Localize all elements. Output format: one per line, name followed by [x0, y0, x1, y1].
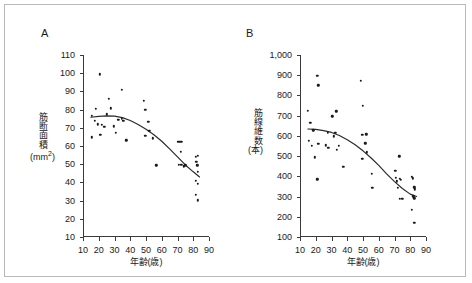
y-tick-label-b: 600 [277, 131, 292, 141]
y-tick-label-a: 60 [65, 141, 75, 151]
x-tick-a: 20 [99, 237, 100, 241]
data-point-b [312, 129, 314, 131]
data-point-a [122, 119, 124, 121]
y-tick-label-a: 100 [60, 68, 75, 78]
y-tick-label-b: 500 [277, 151, 292, 161]
data-point-b [370, 173, 372, 175]
y-tick-label-b: 200 [277, 212, 292, 222]
x-tick-label-a: 30 [109, 245, 119, 255]
x-tick-a: 30 [115, 237, 116, 241]
x-tick-label-b: 90 [421, 245, 431, 255]
data-point-a [195, 161, 197, 163]
data-point-a [120, 88, 122, 90]
y-tick-label-b: 800 [277, 90, 292, 100]
y-axis-unit-a: (mm2) [30, 150, 51, 162]
y-tick-a: 40 [80, 182, 84, 183]
chart-panel-b: B 筋線維数 (本) 1002003004005006007008009001,… [220, 5, 460, 278]
y-tick-label-b: 900 [277, 70, 292, 80]
data-point-b [307, 110, 309, 112]
y-tick-b: 200 [297, 217, 301, 218]
y-tick-label-a: 10 [65, 232, 75, 242]
data-point-b [364, 142, 366, 144]
x-tick-a: 10 [83, 237, 84, 241]
y-tick-a: 90 [80, 91, 84, 92]
data-point-b [316, 178, 318, 180]
x-tick-b: 10 [300, 237, 301, 241]
data-point-a [197, 171, 199, 173]
data-point-a [197, 155, 199, 157]
data-point-b [361, 134, 363, 136]
x-tick-label-a: 60 [157, 245, 167, 255]
data-point-a [197, 183, 199, 185]
data-point-b [413, 222, 415, 224]
data-point-a [148, 129, 150, 131]
x-tick-b: 60 [379, 237, 380, 241]
data-point-b [309, 122, 311, 124]
data-point-a [109, 107, 111, 109]
x-tick-a: 50 [146, 237, 147, 241]
y-tick-label-b: 1,000 [269, 50, 292, 60]
data-point-a [194, 194, 196, 196]
data-point-b [362, 105, 364, 107]
y-tick-a: 70 [80, 128, 84, 129]
data-point-a [197, 199, 199, 201]
data-point-b [327, 147, 329, 149]
x-axis-label-a: 年齢(歳) [130, 255, 163, 268]
data-point-b [401, 197, 403, 199]
y-tick-a: 80 [80, 110, 84, 111]
y-tick-a: 60 [80, 146, 84, 147]
data-point-a [108, 97, 110, 99]
data-point-a [180, 141, 182, 143]
x-tick-label-a: 10 [78, 245, 88, 255]
data-point-b [396, 180, 398, 182]
data-point-b [366, 151, 368, 153]
y-tick-a: 110 [80, 55, 84, 56]
data-point-a [94, 107, 96, 109]
chart-panel-a: A 筋断面積 (mm2) 102030405060708090100110102… [5, 5, 237, 278]
x-tick-b: 70 [395, 237, 396, 241]
data-point-a [144, 108, 146, 110]
data-point-b [326, 132, 328, 134]
data-point-a [94, 119, 96, 121]
y-axis-label-a-text: 筋断面積 [39, 112, 48, 150]
y-tick-label-a: 80 [65, 105, 75, 115]
plot-area-a: 1020304050607080901001101020304050607080… [83, 55, 209, 237]
y-tick-label-b: 400 [277, 171, 292, 181]
data-point-b [395, 177, 397, 179]
data-point-b [411, 209, 413, 211]
y-axis-label-b: 筋線維数 (本) [250, 109, 266, 155]
data-point-a [147, 121, 149, 123]
data-point-a [97, 123, 99, 125]
x-tick-a: 70 [178, 237, 179, 241]
y-tick-label-a: 70 [65, 123, 75, 133]
x-tick-a: 90 [209, 237, 210, 241]
x-tick-label-a: 50 [141, 245, 151, 255]
data-point-a [90, 136, 92, 138]
data-point-b [314, 156, 316, 158]
data-point-a [179, 151, 181, 153]
y-tick-label-a: 110 [61, 50, 75, 60]
data-point-b [414, 188, 416, 190]
x-tick-label-a: 40 [125, 245, 135, 255]
data-point-b [361, 158, 363, 160]
x-tick-a: 80 [193, 237, 194, 241]
figure-border: A 筋断面積 (mm2) 102030405060708090100110102… [4, 4, 466, 277]
y-tick-a: 30 [80, 201, 84, 202]
x-tick-b: 30 [332, 237, 333, 241]
data-point-b [337, 144, 339, 146]
y-tick-b: 400 [297, 176, 301, 177]
x-tick-label-b: 50 [358, 245, 368, 255]
x-tick-label-b: 70 [389, 245, 399, 255]
y-axis-line-b [300, 55, 301, 237]
y-tick-a: 50 [80, 164, 84, 165]
data-point-a [115, 132, 117, 134]
x-tick-b: 90 [426, 237, 427, 241]
data-point-b [371, 187, 373, 189]
y-tick-label-a: 90 [65, 86, 75, 96]
y-tick-b: 1,000 [297, 55, 301, 56]
data-point-b [411, 177, 413, 179]
data-point-b [413, 197, 415, 199]
data-point-a [125, 139, 127, 141]
data-point-b [317, 84, 319, 86]
x-tick-label-b: 40 [342, 245, 352, 255]
